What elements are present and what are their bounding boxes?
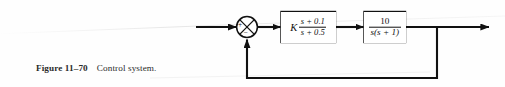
figure-container: K s + 0.1 s + 0.5 10 s(s + 1) + − Figure… bbox=[0, 0, 505, 87]
feedback-path bbox=[247, 27, 437, 78]
controller-gain-label: K bbox=[290, 21, 298, 32]
summing-junction-plus-sign: + bbox=[238, 21, 242, 28]
controller-numerator: s + 0.1 bbox=[299, 17, 326, 26]
plant-denominator: s(s + 1) bbox=[369, 28, 401, 37]
plant-numerator: 10 bbox=[379, 16, 391, 25]
figure-number-label: Figure 11–70 bbox=[36, 63, 88, 73]
figure-caption: Figure 11–70Control system. bbox=[36, 63, 157, 73]
figure-caption-text: Control system. bbox=[97, 63, 157, 73]
controller-block: K s + 0.1 s + 0.5 bbox=[281, 12, 336, 43]
block-diagram bbox=[0, 0, 505, 87]
summing-junction-minus-sign: − bbox=[243, 29, 247, 36]
plant-transfer-fraction: 10 s(s + 1) bbox=[369, 16, 401, 37]
controller-denominator: s + 0.5 bbox=[299, 28, 326, 37]
plant-block: 10 s(s + 1) bbox=[364, 12, 406, 43]
controller-transfer-fraction: s + 0.1 s + 0.5 bbox=[299, 17, 326, 37]
